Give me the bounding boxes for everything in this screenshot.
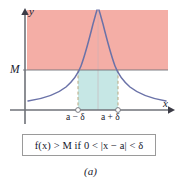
threshold-value-label: M [10,64,20,76]
region-above-threshold [27,10,168,70]
y-axis-label: y [29,6,34,17]
plot-area: y x M a − δ a + δ [0,0,181,130]
tick-label-a-minus-delta: a − δ [66,113,85,123]
formula-box: f(x) > M if 0 < |x − a| < δ [22,134,156,156]
formula-text: f(x) > M if 0 < |x − a| < δ [35,140,143,151]
panel-label: (a) [0,165,181,177]
plot-svg [0,0,181,130]
infinite-limit-figure: y x M a − δ a + δ f(x) > M if 0 < |x − a… [0,0,181,185]
x-axis-label: x [163,98,168,109]
tick-label-a-plus-delta: a + δ [101,113,120,123]
x-axis-arrow [168,106,175,114]
